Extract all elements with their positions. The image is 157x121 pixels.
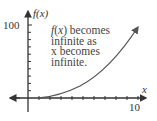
annotation-line-3: x becomes (51, 46, 110, 57)
annotation-line-1: f(x) becomes (51, 25, 110, 36)
x-axis (10, 96, 146, 100)
x-axis-label: x (141, 83, 147, 95)
y-tick-label-100: 100 (3, 19, 20, 31)
annotation-line-4: infinite. (51, 57, 110, 68)
y-axis (28, 11, 32, 112)
annotation-text: f(x) becomes infinite as x becomes infin… (51, 25, 110, 67)
y-axis-label: f(x) (33, 7, 49, 20)
x-tick-label-10: 10 (129, 101, 141, 113)
